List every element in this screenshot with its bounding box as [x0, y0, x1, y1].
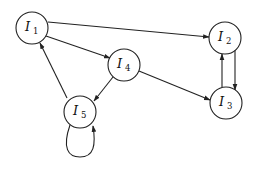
node-i3-sub: 3	[227, 101, 232, 111]
node-i1-sub: 1	[33, 26, 38, 36]
node-i4: I 4	[108, 49, 140, 81]
node-i4-sub: 4	[125, 63, 130, 73]
edge-i1-i2	[48, 22, 209, 37]
node-i4-letter: I	[116, 56, 123, 71]
node-i2-sub: 2	[226, 36, 231, 46]
edge-i4-i3	[139, 71, 210, 100]
edge-i5-self-loop	[66, 125, 94, 157]
node-i2-letter: I	[217, 29, 224, 44]
node-i5-sub: 5	[81, 110, 86, 120]
node-i1: I 1	[16, 12, 48, 44]
node-i3-letter: I	[218, 94, 225, 109]
node-i5-letter: I	[72, 103, 79, 118]
edge-i5-i1	[40, 43, 67, 98]
node-i2: I 2	[209, 22, 241, 54]
node-i1-letter: I	[24, 19, 31, 34]
edge-i1-i4	[46, 36, 110, 58]
node-i5: I 5	[64, 96, 96, 128]
node-i3: I 3	[210, 87, 242, 119]
edge-i4-i5	[94, 77, 113, 101]
graph-diagram: I 1 I 2 I 3 I 4 I 5	[0, 0, 256, 171]
